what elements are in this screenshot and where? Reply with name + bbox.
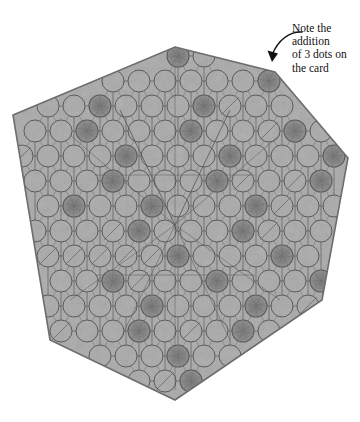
figure-stage: Note the addition of 3 dots on the card [0,0,360,422]
annotation-line-1: Note the [292,22,358,35]
annotation-text-block: Note the addition of 3 dots on the card [292,22,358,75]
annotation-line-2: addition [292,35,358,48]
annotation-line-3: of 3 dots on [292,48,358,61]
annotation-line-4: the card [292,62,358,75]
